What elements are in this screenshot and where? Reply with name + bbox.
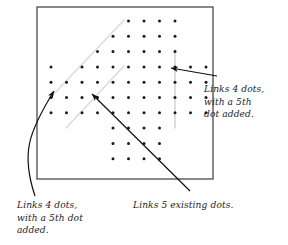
lattice-dot <box>127 111 130 114</box>
lattice-dot <box>143 20 146 23</box>
lattice-dot <box>96 65 99 68</box>
lattice-dot <box>143 50 146 53</box>
annotation-right: Links 4 dots, with a 5th dot added. <box>204 83 264 121</box>
lattice-dot <box>143 96 146 99</box>
lattice-dot <box>127 20 130 23</box>
lattice-dot <box>174 81 177 84</box>
lattice-dot <box>112 35 115 38</box>
lattice-dot <box>65 96 68 99</box>
lattice-dot <box>96 81 99 84</box>
lattice-dot <box>81 96 84 99</box>
lattice-dot <box>127 96 130 99</box>
annotation-bottom-left-line-3: added. <box>17 224 83 237</box>
lattice-dot <box>189 111 192 114</box>
lattice-dot <box>158 81 161 84</box>
lattice-dot <box>127 142 130 145</box>
lattice-dot <box>127 50 130 53</box>
annotation-right-line-1: Links 4 dots, <box>204 83 264 96</box>
lattice-dot <box>112 127 115 130</box>
lattice-dot <box>112 50 115 53</box>
lattice-dot <box>127 81 130 84</box>
lattice-dot <box>112 96 115 99</box>
lattice-dot <box>158 111 161 114</box>
lattice-dot <box>65 81 68 84</box>
annotation-bottom-center: Links 5 existing dots. <box>133 199 233 212</box>
lattice-dot <box>112 65 115 68</box>
lattice-dot <box>174 50 177 53</box>
lattice-dot <box>143 35 146 38</box>
lattice-dot <box>158 50 161 53</box>
lattice-dot <box>50 65 53 68</box>
lattice-dot <box>158 20 161 23</box>
lattice-dot <box>143 157 146 160</box>
lattice-dot <box>143 111 146 114</box>
lattice-dot <box>174 96 177 99</box>
square-border <box>37 7 213 179</box>
lattice-dot <box>96 50 99 53</box>
lattice-dot <box>81 81 84 84</box>
lattice-dot <box>189 65 192 68</box>
lattice-dot <box>158 35 161 38</box>
annotation-right-line-3: dot added. <box>204 108 264 121</box>
lattice-dot <box>50 81 53 84</box>
annotation-bottom-center-line-1: Links 5 existing dots. <box>133 199 233 212</box>
lattice-dot <box>143 127 146 130</box>
lattice-dot <box>112 142 115 145</box>
lattice-dot <box>50 111 53 114</box>
lattice-dot <box>81 111 84 114</box>
lattice-dot <box>127 157 130 160</box>
lattice-dot <box>143 81 146 84</box>
lattice-dot <box>81 65 84 68</box>
lattice-dot <box>158 142 161 145</box>
lattice-dot <box>143 65 146 68</box>
lattice-dot <box>158 65 161 68</box>
lattice-dot <box>174 20 177 23</box>
annotation-bottom-left-line-2: with a 5th dot <box>17 212 83 225</box>
annotation-bottom-left: Links 4 dots, with a 5th dot added. <box>17 199 83 237</box>
lattice-dot <box>158 96 161 99</box>
lattice-dot <box>158 127 161 130</box>
lattice-dot <box>65 111 68 114</box>
lattice-dot <box>189 81 192 84</box>
lattice-dot <box>127 65 130 68</box>
annotation-right-line-2: with a 5th <box>204 96 264 109</box>
lattice-dot <box>112 157 115 160</box>
lattice-dot <box>96 111 99 114</box>
lattice-dot <box>174 35 177 38</box>
lattice-dot <box>127 35 130 38</box>
lattice-dot <box>189 96 192 99</box>
annotation-bottom-left-line-1: Links 4 dots, <box>17 199 83 212</box>
lattice-dot <box>174 111 177 114</box>
lattice-dot <box>205 65 208 68</box>
lattice-dot <box>112 81 115 84</box>
